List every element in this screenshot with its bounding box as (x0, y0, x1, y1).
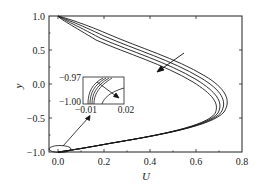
y-tick-label: 1.0 (33, 11, 46, 22)
inset-x-left-label: −0.01 (75, 105, 97, 115)
y-tick-label: 0.0 (33, 79, 46, 90)
y-tick-label: 0.5 (33, 45, 46, 56)
velocity-profile-chart: 0.0 0.2 0.4 0.6 0.8 1.0 0.5 0.0 −0.5 −1.… (0, 0, 261, 191)
inset-y-top-label: −0.97 (59, 73, 81, 83)
inset-x-right-label: 0.02 (118, 105, 135, 115)
inset-pointer-arrow (63, 116, 90, 147)
x-axis-label: U (142, 170, 151, 182)
x-tick-label: 0.2 (98, 156, 111, 167)
curve-4 (58, 16, 216, 152)
y-axis-label: y (12, 83, 24, 89)
y-tick-label: −1.0 (27, 147, 45, 158)
y-tick-label: −0.5 (27, 113, 45, 124)
x-tick-label: 0.0 (52, 156, 65, 167)
x-tick-label: 0.8 (236, 156, 249, 167)
inset-plot: −0.97 −1.00 −0.01 0.02 (59, 73, 135, 115)
x-tick-label: 0.6 (190, 156, 203, 167)
x-ticks (58, 16, 219, 152)
x-tick-label: 0.4 (144, 156, 157, 167)
plot-frame (49, 16, 242, 152)
